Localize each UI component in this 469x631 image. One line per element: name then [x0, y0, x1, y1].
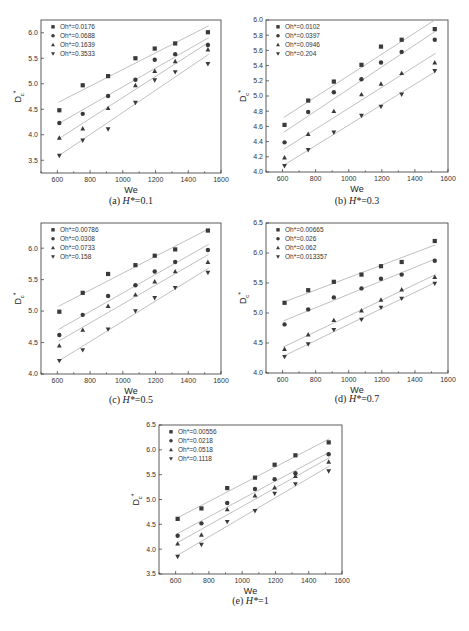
- series-3: [175, 459, 331, 545]
- caption-prefix: (c): [109, 394, 123, 406]
- y-axis-label: Dc*: [130, 493, 143, 506]
- data-point: [359, 77, 363, 81]
- data-point: [133, 283, 137, 287]
- data-point: [359, 273, 363, 277]
- legend-marker: [276, 237, 280, 241]
- legend-label: Oh*=0.00665: [285, 226, 324, 233]
- data-point: [57, 343, 62, 347]
- legend-marker: [276, 246, 280, 250]
- legend-marker: [51, 52, 55, 56]
- y-axis: 3.54.04.55.05.56.0: [28, 29, 44, 164]
- y-tick-label: 6.0: [28, 29, 38, 36]
- legend-marker: [51, 25, 54, 28]
- data-point: [306, 131, 311, 135]
- legend-marker: [169, 448, 173, 452]
- data-point: [57, 154, 62, 158]
- x-tick-label: 1200: [148, 176, 164, 183]
- legend-marker: [276, 52, 280, 56]
- x-tick-label: 1600: [334, 577, 350, 584]
- legend-label: Oh*=0.0102: [285, 23, 320, 30]
- data-point: [306, 98, 310, 102]
- legend-label: Oh*=0.204: [285, 50, 317, 57]
- caption-variable: H*: [348, 393, 361, 404]
- data-point: [205, 47, 210, 51]
- data-point: [253, 509, 258, 513]
- data-point: [106, 294, 110, 298]
- fit-line-4: [284, 72, 436, 166]
- data-point: [173, 269, 178, 273]
- x-axis-label: We: [350, 184, 363, 194]
- x-axis: 6008001000120014001600: [266, 169, 456, 182]
- x-tick-label: 1600: [213, 176, 229, 183]
- data-point: [106, 74, 110, 78]
- data-point: [133, 292, 138, 296]
- y-label-sub: c: [137, 496, 143, 499]
- data-point: [205, 62, 210, 66]
- y-axis: 4.04.55.05.56.06.5: [253, 219, 269, 376]
- legend-label: Oh*=0.00786: [60, 226, 99, 233]
- x-tick-label: 1200: [374, 376, 390, 383]
- data-point: [173, 260, 177, 264]
- fit-lines: [284, 245, 436, 356]
- data-point: [359, 286, 363, 290]
- data-point: [306, 342, 311, 346]
- y-axis-label: Dc*: [237, 90, 250, 103]
- data-point: [173, 247, 177, 251]
- data-point: [282, 355, 287, 359]
- data-point: [282, 346, 287, 350]
- fit-line-4: [59, 54, 209, 156]
- y-tick-label: 5.5: [28, 55, 38, 62]
- legend-label: Oh*=0.00556: [178, 428, 217, 435]
- data-point: [331, 318, 336, 322]
- data-point: [175, 534, 179, 538]
- data-point: [282, 123, 286, 127]
- data-point: [153, 269, 157, 273]
- data-point: [399, 50, 403, 54]
- series-2: [57, 248, 210, 337]
- data-point: [57, 121, 61, 125]
- x-tick-label: 1600: [213, 377, 229, 384]
- data-point: [272, 492, 277, 496]
- data-point: [332, 79, 336, 83]
- caption-variable: H*: [348, 195, 361, 206]
- data-point: [331, 131, 336, 135]
- data-point: [206, 248, 210, 252]
- legend-marker: [276, 25, 279, 28]
- legend-marker: [276, 43, 280, 47]
- x-axis: 6008001000120014001600: [41, 371, 229, 384]
- legend: Oh*=0.0102Oh*=0.0397Oh*=0.0946Oh*=0.204: [276, 23, 320, 57]
- y-tick-label: 4.0: [28, 131, 38, 138]
- data-point: [332, 90, 336, 94]
- series-4: [175, 469, 331, 559]
- data-point: [306, 307, 310, 311]
- y-tick-label: 5.5: [146, 471, 156, 478]
- x-axis: 6008001000120014001600: [266, 370, 456, 383]
- legend-marker: [276, 255, 280, 259]
- data-point: [326, 452, 330, 456]
- y-tick-label: 4.6: [253, 123, 263, 130]
- x-tick-label: 1400: [301, 577, 317, 584]
- fit-line-3: [177, 458, 330, 543]
- data-point: [80, 348, 85, 352]
- data-point: [253, 487, 257, 491]
- data-point: [205, 271, 210, 275]
- caption-value: =0.5: [135, 394, 153, 405]
- data-point: [173, 70, 178, 74]
- legend-label: Oh*=0.0733: [60, 244, 95, 251]
- y-tick-label: 5.0: [253, 92, 263, 99]
- series-3: [57, 47, 210, 140]
- data-point: [282, 322, 286, 326]
- legend-marker: [51, 228, 54, 231]
- legend: Oh*=0.0176Oh*=0.0688Oh*=0.1639Oh*=0.3533: [51, 23, 95, 57]
- data-point: [433, 38, 437, 42]
- data-point: [273, 463, 277, 467]
- x-tick-label: 1000: [341, 175, 357, 182]
- x-tick-label: 1400: [180, 176, 196, 183]
- data-point: [282, 140, 286, 144]
- data-point: [331, 109, 336, 113]
- data-point: [359, 63, 363, 67]
- data-point: [80, 126, 85, 130]
- legend-label: Oh*=0.0308: [60, 235, 95, 242]
- data-point: [432, 274, 437, 278]
- data-point: [225, 501, 229, 505]
